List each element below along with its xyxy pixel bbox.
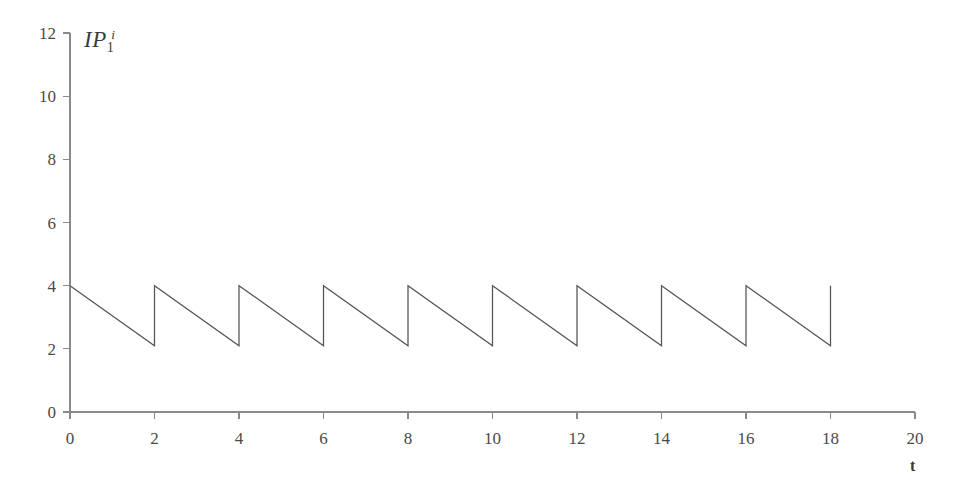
chart-container: 024681012 02468101214161820 IP1i t	[0, 0, 966, 481]
series-label-superscript: i	[111, 27, 115, 42]
x-tick-label: 6	[319, 429, 328, 448]
x-tick-label: 10	[484, 429, 501, 448]
x-tick-label: 16	[738, 429, 755, 448]
x-tick-label: 20	[907, 429, 924, 448]
y-tick-label: 6	[48, 214, 57, 233]
y-tick-label: 10	[39, 87, 56, 106]
y-tick-label: 12	[39, 24, 56, 43]
x-tick-label: 14	[653, 429, 671, 448]
y-tick-label: 4	[48, 277, 57, 296]
x-tick-label: 0	[66, 429, 75, 448]
y-tick-label: 0	[48, 403, 57, 422]
x-tick-label: 2	[150, 429, 159, 448]
x-tick-label: 8	[404, 429, 413, 448]
x-axis-title: t	[910, 457, 915, 475]
series-label-base: IP	[84, 27, 107, 52]
y-tick-label: 2	[48, 340, 57, 359]
x-tick-label: 12	[569, 429, 586, 448]
x-tick-label: 18	[822, 429, 839, 448]
x-axis-ticks: 02468101214161820	[66, 412, 924, 448]
x-tick-label: 4	[235, 429, 244, 448]
y-axis-ticks: 024681012	[39, 24, 70, 422]
series-label: IP1i	[84, 27, 116, 56]
y-tick-label: 8	[48, 150, 57, 169]
sawtooth-plot: 024681012 02468101214161820	[0, 0, 966, 481]
data-series-line	[70, 286, 831, 346]
